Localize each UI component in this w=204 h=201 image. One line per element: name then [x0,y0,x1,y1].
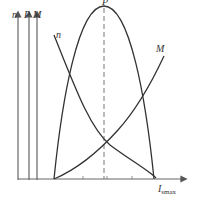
x-axis-label: Ismax [157,183,177,196]
m-axis-label: M [32,9,42,20]
m-curve-label: M [155,43,165,54]
y-axes [18,14,37,180]
n-curve [54,35,156,178]
p-curve-label: P [101,0,108,7]
p-axis-label: P [23,9,30,20]
characteristic-curves-diagram: n P M Ismax P n M [0,0,204,201]
n-curve-label: n [56,29,61,40]
n-axis-label: n [12,9,17,20]
